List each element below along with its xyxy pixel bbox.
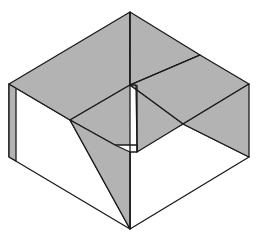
center-square [130,145,137,152]
origami-box-diagram [0,0,258,234]
left-edge-strip [9,84,16,161]
